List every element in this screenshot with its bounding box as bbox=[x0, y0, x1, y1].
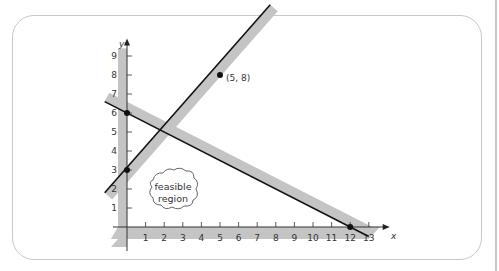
x-tick-label: 7 bbox=[254, 233, 260, 243]
y-tick-label: 7 bbox=[111, 89, 117, 99]
y-axis-shading-tip bbox=[111, 239, 118, 247]
vertex-point bbox=[217, 72, 223, 78]
x-tick-label: 5 bbox=[217, 233, 223, 243]
y-tick-label: 8 bbox=[111, 70, 117, 80]
y-tick-label: 3 bbox=[111, 165, 117, 175]
y-tick-label: 9 bbox=[111, 51, 117, 61]
vertex-point bbox=[124, 110, 130, 116]
x-tick-label: 1 bbox=[143, 233, 149, 243]
x-tick-label: 6 bbox=[236, 233, 242, 243]
x-axis-shading bbox=[111, 227, 380, 239]
x-axis-label: x bbox=[390, 231, 397, 241]
x-tick-label: 10 bbox=[307, 233, 319, 243]
vertex-point bbox=[124, 167, 130, 173]
y-axis-shading bbox=[118, 48, 127, 247]
vertex-point bbox=[347, 224, 353, 230]
x-tick-label: 11 bbox=[326, 233, 337, 243]
y-tick-label: 5 bbox=[111, 127, 117, 137]
x-tick-label: 8 bbox=[273, 233, 279, 243]
y-tick-label: 4 bbox=[111, 146, 117, 156]
x-tick-label: 2 bbox=[161, 233, 167, 243]
x-axis-arrow-icon bbox=[383, 224, 390, 230]
x-tick-label: 9 bbox=[292, 233, 298, 243]
y-axis-label: y bbox=[118, 39, 125, 49]
point-label: (5, 8) bbox=[226, 73, 250, 83]
constraint-line-2 bbox=[105, 102, 369, 237]
linear-inequality-graph: xy12345678910111213123456789(5, 8)feasib… bbox=[0, 0, 499, 271]
cloud-text-line1: feasible bbox=[154, 181, 191, 192]
x-tick-label: 3 bbox=[180, 233, 186, 243]
constraint-shading-2 bbox=[105, 93, 374, 237]
x-tick-label: 4 bbox=[199, 233, 205, 243]
y-tick-label: 6 bbox=[111, 108, 117, 118]
cloud-text-line2: region bbox=[158, 193, 188, 204]
y-tick-label: 1 bbox=[111, 203, 117, 213]
x-tick-label: 12 bbox=[344, 233, 355, 243]
y-axis-arrow-icon bbox=[124, 39, 130, 46]
